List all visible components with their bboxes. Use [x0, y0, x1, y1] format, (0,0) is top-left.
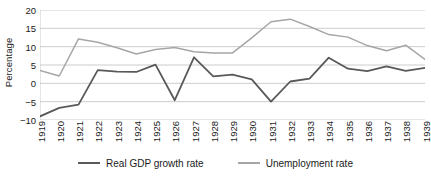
x-tick-label: 1920	[55, 121, 66, 142]
x-tick-label: 1937	[382, 121, 393, 142]
x-tick-label: 1933	[305, 121, 316, 142]
legend-item[interactable]: Real GDP growth rate	[78, 158, 204, 169]
x-tick-label: 1929	[228, 121, 239, 142]
x-tick-label: 1927	[190, 121, 201, 142]
y-tick-label: −10	[20, 115, 36, 126]
x-tick-label: 1922	[93, 121, 104, 142]
x-tick-label: 1919	[36, 121, 47, 142]
x-axis-tick-labels: 1919192019211922192319241925192619271928…	[40, 121, 425, 151]
line-chart: Percentage 20151050−5−10 191919201921192…	[0, 0, 431, 179]
legend-item[interactable]: Unemployment rate	[238, 158, 353, 169]
legend-label: Unemployment rate	[266, 158, 353, 169]
x-tick-label: 1928	[209, 121, 220, 142]
legend-label: Real GDP growth rate	[106, 158, 204, 169]
x-tick-label: 1934	[324, 121, 335, 142]
chart-legend: Real GDP growth rateUnemployment rate	[0, 154, 431, 172]
x-tick-label: 1926	[170, 121, 181, 142]
y-axis-tick-labels: 20151050−5−10	[16, 10, 38, 120]
legend-swatch-icon	[238, 162, 260, 164]
x-tick-label: 1931	[267, 121, 278, 142]
y-tick-label: −5	[25, 96, 36, 107]
x-tick-label: 1935	[344, 121, 355, 142]
x-tick-label: 1932	[286, 121, 297, 142]
x-tick-label: 1939	[421, 121, 431, 142]
gridlines	[40, 10, 425, 120]
plot-svg	[40, 10, 425, 120]
plot-area	[40, 10, 425, 120]
y-tick-label: 10	[25, 41, 36, 52]
legend-swatch-icon	[78, 162, 100, 164]
x-tick-label: 1936	[363, 121, 374, 142]
y-tick-label: 15	[25, 23, 36, 34]
x-tick-label: 1925	[151, 121, 162, 142]
series-line-unemployment-rate	[40, 19, 425, 76]
series-line-real-gdp-growth-rate	[40, 57, 425, 116]
y-tick-label: 0	[31, 78, 36, 89]
y-axis-title-label: Percentage	[4, 38, 15, 88]
x-tick-label: 1923	[113, 121, 124, 142]
x-tick-label: 1924	[132, 121, 143, 142]
y-tick-label: 20	[25, 5, 36, 16]
x-tick-label: 1938	[401, 121, 412, 142]
y-tick-label: 5	[31, 60, 36, 71]
x-tick-label: 1930	[247, 121, 258, 142]
x-tick-label: 1921	[74, 121, 85, 142]
